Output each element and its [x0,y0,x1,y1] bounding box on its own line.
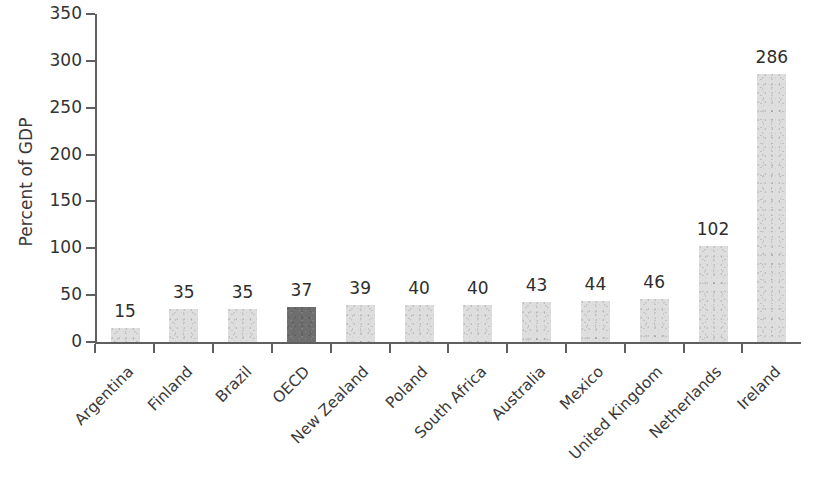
bar-mexico [581,301,610,342]
y-tick-300 [86,60,95,62]
bar-poland [405,305,434,342]
x-tick [330,344,332,353]
y-tick-250 [86,107,95,109]
y-tick-label: 350 [22,3,82,23]
bar-finland [169,309,198,342]
x-tick [565,344,567,353]
y-tick-label: 250 [22,97,82,117]
y-tick-label: 50 [22,284,82,304]
bar-argentina [111,328,140,342]
y-tick-150 [86,200,95,202]
y-tick-50 [86,294,95,296]
x-tick [741,344,743,353]
bar-ireland [757,74,786,342]
y-axis-line [95,14,97,344]
x-tick [212,344,214,353]
bar-netherlands [699,246,728,342]
value-label-netherlands: 102 [678,219,748,239]
x-tick [506,344,508,353]
x-tick [683,344,685,353]
x-tick [624,344,626,353]
bar-oecd [287,307,316,342]
bar-brazil [228,309,257,342]
y-tick-label: 100 [22,237,82,257]
y-tick-350 [86,13,95,15]
bar-united-kingdom [640,299,669,342]
y-tick-label: 150 [22,190,82,210]
value-label-united-kingdom: 46 [619,272,689,292]
x-tick [447,344,449,353]
value-label-argentina: 15 [90,301,160,321]
bar-australia [522,302,551,342]
bar-new-zealand [346,305,375,342]
y-tick-0 [86,341,95,343]
y-tick-label: 0 [22,331,82,351]
x-tick [271,344,273,353]
x-label-argentina: Argentina [0,363,137,483]
y-tick-label: 200 [22,144,82,164]
bar-chart: Percent of GDP 050100150200250300350 153… [0,0,821,483]
y-tick-label: 300 [22,50,82,70]
value-label-ireland: 286 [737,47,807,67]
x-tick [94,344,96,353]
x-tick [153,344,155,353]
x-tick [389,344,391,353]
bar-south-africa [463,305,492,342]
y-tick-100 [86,247,95,249]
y-tick-200 [86,154,95,156]
